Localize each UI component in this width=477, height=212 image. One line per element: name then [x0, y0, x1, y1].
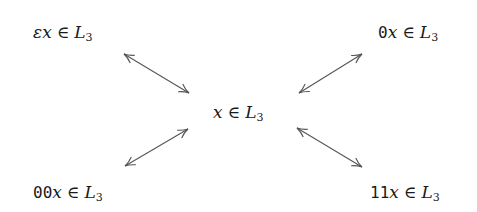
node-variable: x: [52, 182, 62, 202]
node-bottom-left: 00x∈L3: [33, 184, 103, 203]
edge-center-bottom-left: [125, 129, 188, 166]
language-subscript: 3: [256, 111, 263, 124]
language-subscript: 3: [431, 31, 438, 44]
node-variable: x: [213, 102, 223, 122]
diagram-canvas: εx∈L3 0x∈L3 x∈L3 00x∈L3 11x∈L3: [0, 0, 477, 212]
edge-center-top-right: [299, 54, 362, 93]
language-symbol: L: [421, 182, 432, 202]
language-symbol: L: [84, 182, 95, 202]
language-symbol: L: [245, 102, 256, 122]
language-subscript: 3: [86, 31, 93, 44]
language-symbol: L: [420, 22, 431, 42]
language-subscript: 3: [96, 191, 103, 204]
node-bottom-right: 11x∈L3: [370, 184, 440, 203]
node-prefix: 0: [378, 23, 388, 42]
edge-center-top-left: [124, 54, 189, 93]
element-of-symbol: ∈: [52, 22, 75, 42]
element-of-symbol: ∈: [62, 182, 85, 202]
node-top-left: εx∈L3: [33, 24, 93, 43]
edge-center-bottom-right: [297, 128, 362, 167]
node-prefix: 11: [370, 183, 389, 202]
node-prefix: 00: [33, 183, 52, 202]
element-of-symbol: ∈: [399, 182, 422, 202]
element-of-symbol: ∈: [397, 22, 420, 42]
language-subscript: 3: [433, 191, 440, 204]
node-variable: x: [42, 22, 52, 42]
language-symbol: L: [74, 22, 85, 42]
node-prefix: ε: [33, 22, 42, 42]
node-variable: x: [389, 182, 399, 202]
node-variable: x: [388, 22, 398, 42]
node-top-right: 0x∈L3: [378, 24, 438, 43]
node-center: x∈L3: [213, 104, 263, 123]
element-of-symbol: ∈: [223, 102, 246, 122]
